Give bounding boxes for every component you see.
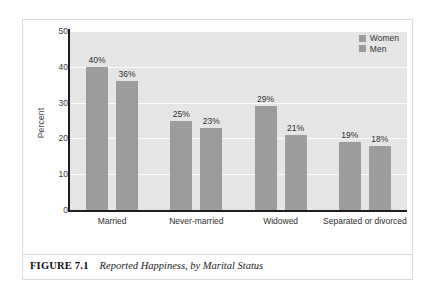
chart-legend: WomenMen	[359, 34, 399, 53]
y-axis-line	[68, 29, 70, 212]
bar-men-2	[285, 135, 307, 210]
y-axis-tick-20: 20	[59, 134, 68, 143]
x-axis-label-1: Never-married	[151, 216, 241, 227]
bar-men-1	[200, 128, 222, 210]
y-axis-tick-labels: 01020304050	[47, 31, 68, 210]
legend-swatch-icon-women	[359, 35, 366, 42]
y-axis-tick-40: 40	[59, 63, 68, 72]
bar-men-0	[116, 81, 138, 210]
bar-label-men-3: 18%	[371, 135, 388, 144]
bar-label-women-2: 29%	[257, 95, 274, 104]
bar-women-0	[86, 67, 108, 210]
gridline-40	[70, 67, 407, 68]
legend-swatch-icon-men	[359, 45, 366, 52]
legend-item-men: Men	[359, 45, 399, 54]
plot-area: 40%36%25%23%29%21%19%18%	[70, 31, 407, 210]
bar-label-women-3: 19%	[341, 131, 358, 140]
y-axis-tick-50: 50	[59, 27, 68, 36]
bar-women-1	[170, 121, 192, 211]
bar-women-3	[339, 142, 361, 210]
legend-label: Men	[370, 45, 387, 54]
caption-label: FIGURE 7.1	[30, 260, 89, 271]
x-axis-label-3: Separated or divorced	[320, 216, 410, 227]
chart-area: Percent 01020304050 40%36%25%23%29%21%19…	[23, 20, 412, 252]
bar-label-men-0: 36%	[119, 70, 136, 79]
caption-divider	[23, 254, 412, 255]
figure-caption: FIGURE 7.1 Reported Happiness, by Marita…	[30, 260, 263, 271]
legend-item-women: Women	[359, 34, 399, 43]
x-axis-line	[68, 210, 407, 212]
bar-label-women-1: 25%	[173, 110, 190, 119]
x-axis-label-2: Widowed	[236, 216, 326, 227]
figure-container: Percent 01020304050 40%36%25%23%29%21%19…	[22, 19, 413, 280]
bar-label-women-0: 40%	[89, 56, 106, 65]
caption-title: Reported Happiness, by Marital Status	[100, 260, 264, 271]
x-axis-label-0: Married	[67, 216, 157, 227]
bar-label-men-1: 23%	[203, 117, 220, 126]
bar-men-3	[369, 146, 391, 210]
legend-label: Women	[370, 34, 399, 43]
gridline-50	[70, 31, 407, 32]
bar-label-men-2: 21%	[287, 124, 304, 133]
bar-women-2	[255, 106, 277, 210]
y-axis-tick-30: 30	[59, 98, 68, 107]
y-axis-title: Percent	[36, 83, 46, 163]
y-axis-tick-10: 10	[59, 170, 68, 179]
